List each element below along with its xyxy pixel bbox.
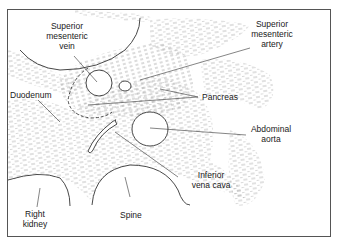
- label-line: aorta: [246, 134, 296, 144]
- label-line: mesenteric: [246, 29, 298, 39]
- label-superior-mesenteric-vein: Superior mesenteric vein: [41, 21, 93, 51]
- label-line: artery: [246, 39, 298, 49]
- label-pancreas: Pancreas: [202, 92, 238, 102]
- label-inferior-vena-cava: Inferior vena cava: [186, 170, 236, 190]
- label-superior-mesenteric-artery: Superior mesenteric artery: [246, 19, 298, 49]
- label-line: Superior: [246, 19, 298, 29]
- label-right-kidney: Right kidney: [18, 209, 52, 229]
- sma-shape: [119, 81, 131, 91]
- label-spine: Spine: [120, 210, 142, 220]
- label-line: kidney: [18, 219, 52, 229]
- label-line: Superior: [41, 21, 93, 31]
- label-line: Right: [18, 209, 52, 219]
- label-line: Abdominal: [246, 124, 296, 134]
- label-duodenum: Duodenum: [10, 90, 52, 100]
- label-line: vein: [41, 41, 93, 51]
- label-line: mesenteric: [41, 31, 93, 41]
- label-line: vena cava: [186, 180, 236, 190]
- label-abdominal-aorta: Abdominal aorta: [246, 124, 296, 144]
- label-line: Inferior: [186, 170, 236, 180]
